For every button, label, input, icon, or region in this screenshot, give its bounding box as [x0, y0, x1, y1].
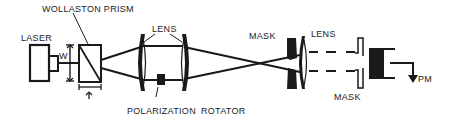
rotator-label: ROTATOR	[201, 106, 246, 116]
laser-label: LASER	[21, 33, 52, 43]
optical-setup-diagram: LASER W WOLLASTON PRISM	[0, 0, 452, 123]
beam-paths	[101, 46, 300, 80]
mask-1	[287, 38, 297, 89]
lens-1	[138, 34, 146, 91]
prism-thickness-marker	[79, 84, 101, 99]
mask-1-label: MASK	[249, 31, 276, 41]
lens-3-label: LENS	[311, 29, 336, 39]
polarization-rotator	[157, 74, 165, 85]
wollaston-prism	[73, 13, 101, 82]
lens-3	[299, 36, 307, 89]
mask-2	[355, 38, 363, 88]
lens-1-label: LENS	[152, 24, 177, 34]
mask-2-label: MASK	[334, 92, 361, 102]
beam-width-label: W	[59, 51, 68, 61]
photomultiplier	[369, 48, 418, 83]
dashed-beams	[309, 52, 355, 71]
wollaston-prism-label: WOLLASTON PRISM	[42, 4, 134, 14]
laser	[30, 45, 78, 81]
lens-2	[182, 34, 190, 91]
detector-label: PM	[418, 74, 432, 84]
polarization-label: POLARIZATION	[127, 106, 196, 116]
